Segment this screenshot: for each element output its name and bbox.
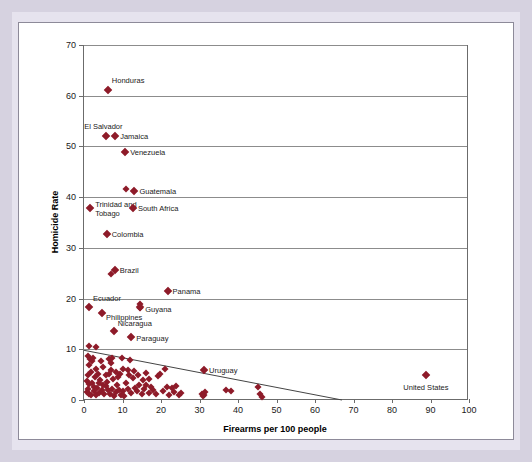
x-tick-mark	[469, 399, 470, 403]
data-point-labeled	[121, 147, 129, 155]
x-tick-mark	[200, 399, 201, 403]
x-tick-label: 40	[233, 405, 243, 415]
data-point	[258, 393, 265, 400]
y-tick-label: 50	[66, 141, 76, 151]
data-point	[127, 356, 134, 363]
trend-line	[84, 45, 469, 400]
data-point-labeled	[130, 186, 138, 194]
data-point-labeled	[98, 309, 106, 317]
point-label: Guyana	[145, 305, 171, 314]
x-tick-label: 70	[348, 405, 358, 415]
data-point	[127, 390, 134, 397]
point-label: El Salvador	[84, 123, 122, 132]
gridline	[84, 349, 467, 350]
x-tick-mark	[277, 399, 278, 403]
point-label: Uruguay	[209, 366, 237, 375]
gridline	[84, 299, 467, 300]
y-tick-mark	[79, 96, 84, 97]
y-tick-mark	[79, 45, 84, 46]
x-tick-label: 60	[310, 405, 320, 415]
y-tick-mark	[79, 299, 84, 300]
data-point-labeled	[102, 230, 110, 238]
y-tick-label: 40	[66, 192, 76, 202]
point-label: Honduras	[112, 76, 145, 85]
y-tick-mark	[79, 146, 84, 147]
y-tick-label: 10	[66, 344, 76, 354]
point-label: Jamaica	[120, 133, 148, 142]
y-tick-mark	[79, 197, 84, 198]
gridline	[84, 248, 467, 249]
x-tick-mark	[354, 399, 355, 403]
x-tick-mark	[315, 399, 316, 403]
data-point	[100, 363, 107, 370]
x-tick-label: 100	[461, 405, 476, 415]
scatter-chart: Homicide Rate 01020304050607001020304050…	[0, 0, 532, 462]
y-tick-mark	[79, 349, 84, 350]
x-tick-mark	[84, 399, 85, 403]
data-point	[119, 355, 126, 362]
data-point	[173, 382, 180, 389]
data-point-labeled	[104, 85, 112, 93]
point-label: United States	[403, 384, 448, 393]
x-tick-mark	[392, 399, 393, 403]
x-tick-label: 50	[271, 405, 281, 415]
point-label: South Africa	[138, 205, 178, 214]
x-tick-mark	[161, 399, 162, 403]
point-label: Panama	[173, 288, 201, 297]
x-tick-label: 20	[156, 405, 166, 415]
x-tick-label: 80	[387, 405, 397, 415]
gridline	[84, 45, 467, 46]
data-point-labeled	[102, 132, 110, 140]
y-axis-title: Homicide Rate	[50, 191, 60, 254]
data-point	[152, 390, 159, 397]
plot-area: 0102030405060700102030405060708090100Hon…	[83, 45, 468, 400]
data-point	[161, 366, 168, 373]
y-tick-label: 60	[66, 91, 76, 101]
data-point	[255, 383, 262, 390]
point-label: Guatemala	[139, 187, 176, 196]
data-point	[228, 388, 235, 395]
data-point	[146, 375, 153, 382]
y-tick-label: 70	[66, 40, 76, 50]
x-tick-mark	[431, 399, 432, 403]
point-label: Paraguay	[136, 334, 168, 343]
y-tick-label: 0	[71, 395, 76, 405]
y-tick-label: 20	[66, 294, 76, 304]
data-point-labeled	[111, 132, 119, 140]
x-tick-label: 90	[425, 405, 435, 415]
data-point-labeled	[85, 303, 93, 311]
data-point-labeled	[163, 287, 171, 295]
data-point-labeled	[86, 204, 94, 212]
point-label: Brazil	[120, 267, 139, 276]
gridline	[84, 96, 467, 97]
data-point-labeled	[127, 332, 135, 340]
point-label: Ecuador	[93, 295, 121, 304]
x-tick-label: 0	[81, 405, 86, 415]
y-tick-mark	[79, 248, 84, 249]
data-point-labeled	[422, 370, 430, 378]
gridline	[84, 197, 467, 198]
data-point-labeled	[200, 365, 208, 373]
point-label: Nicaragua	[118, 320, 152, 329]
y-tick-label: 30	[66, 243, 76, 253]
point-label: Venezuela	[130, 148, 165, 157]
x-tick-label: 30	[194, 405, 204, 415]
data-point-labeled	[109, 327, 117, 335]
x-axis-title: Firearms per 100 people	[223, 424, 327, 434]
x-tick-mark	[238, 399, 239, 403]
x-tick-label: 10	[117, 405, 127, 415]
point-label: Colombia	[112, 231, 144, 240]
